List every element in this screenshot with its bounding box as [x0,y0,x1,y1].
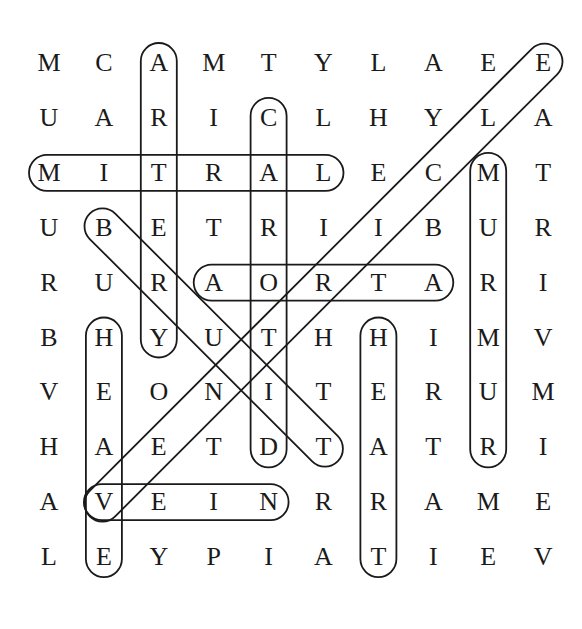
grid-cell[interactable]: A [84,427,124,467]
grid-cell[interactable]: L [29,537,69,577]
grid-cell[interactable]: I [194,482,234,522]
grid-cell[interactable]: R [139,263,179,303]
grid-cell[interactable]: B [29,318,69,358]
grid-cell[interactable]: E [523,43,563,83]
grid-cell[interactable]: C [84,43,124,83]
grid-cell[interactable]: M [468,482,508,522]
grid-cell[interactable]: C [413,153,453,193]
grid-cell[interactable]: R [249,208,289,248]
grid-cell[interactable]: T [304,372,344,412]
grid-cell[interactable]: I [413,537,453,577]
grid-cell[interactable]: I [413,318,453,358]
grid-cell[interactable]: U [29,208,69,248]
grid-cell[interactable]: P [194,537,234,577]
grid-cell[interactable]: L [304,98,344,138]
grid-cell[interactable]: E [523,482,563,522]
grid-cell[interactable]: A [413,263,453,303]
grid-cell[interactable]: R [304,263,344,303]
grid-cell[interactable]: T [249,43,289,83]
grid-cell[interactable]: I [358,208,398,248]
grid-cell[interactable]: I [249,372,289,412]
grid-cell[interactable]: E [139,482,179,522]
grid-cell[interactable]: N [249,482,289,522]
grid-cell[interactable]: T [523,153,563,193]
grid-cell[interactable]: Y [413,98,453,138]
grid-cell[interactable]: M [523,372,563,412]
grid-cell[interactable]: V [523,537,563,577]
grid-cell[interactable]: T [358,537,398,577]
grid-cell[interactable]: U [29,98,69,138]
grid-cell[interactable]: V [29,372,69,412]
grid-cell[interactable]: A [249,153,289,193]
grid-cell[interactable]: I [249,537,289,577]
grid-cell[interactable]: M [468,153,508,193]
grid-cell[interactable]: R [523,208,563,248]
grid-cell[interactable]: E [139,208,179,248]
grid-cell[interactable]: A [413,43,453,83]
grid-cell[interactable]: E [84,537,124,577]
grid-cell[interactable]: R [139,98,179,138]
grid-cell[interactable]: U [84,263,124,303]
grid-cell[interactable]: T [413,427,453,467]
grid-cell[interactable]: A [139,43,179,83]
grid-cell[interactable]: H [29,427,69,467]
grid-cell[interactable]: A [29,482,69,522]
grid-cell[interactable]: E [468,537,508,577]
grid-cell[interactable]: T [194,208,234,248]
grid-cell[interactable]: Y [139,318,179,358]
grid-cell[interactable]: V [84,482,124,522]
grid-cell[interactable]: A [84,98,124,138]
grid-cell[interactable]: L [468,98,508,138]
grid-cell[interactable]: E [358,372,398,412]
grid-cell[interactable]: A [413,482,453,522]
grid-cell[interactable]: R [413,372,453,412]
grid-cell[interactable]: R [194,153,234,193]
grid-cell[interactable]: D [249,427,289,467]
grid-cell[interactable]: N [194,372,234,412]
grid-cell[interactable]: T [139,153,179,193]
grid-cell[interactable]: E [468,43,508,83]
grid-cell[interactable]: U [468,208,508,248]
grid-cell[interactable]: A [523,98,563,138]
grid-cell[interactable]: A [304,537,344,577]
grid-cell[interactable]: H [304,318,344,358]
grid-cell[interactable]: Y [139,537,179,577]
grid-cell[interactable]: U [468,372,508,412]
grid-cell[interactable]: B [413,208,453,248]
grid-cell[interactable]: B [84,208,124,248]
grid-cell[interactable]: I [84,153,124,193]
grid-cell[interactable]: R [29,263,69,303]
grid-cell[interactable]: E [84,372,124,412]
grid-cell[interactable]: M [29,153,69,193]
grid-cell[interactable]: T [304,427,344,467]
grid-cell[interactable]: R [358,482,398,522]
grid-cell[interactable]: T [249,318,289,358]
grid-cell[interactable]: H [84,318,124,358]
grid-cell[interactable]: A [358,427,398,467]
grid-cell[interactable]: H [358,318,398,358]
grid-cell[interactable]: T [358,263,398,303]
grid-cell[interactable]: I [304,208,344,248]
grid-cell[interactable]: R [468,427,508,467]
grid-cell[interactable]: A [194,263,234,303]
grid-cell[interactable]: L [304,153,344,193]
grid-cell[interactable]: M [468,318,508,358]
grid-cell[interactable]: V [523,318,563,358]
grid-cell[interactable]: U [194,318,234,358]
grid-cell[interactable]: E [358,153,398,193]
grid-cell[interactable]: I [194,98,234,138]
grid-cell[interactable]: M [29,43,69,83]
grid-cell[interactable]: M [194,43,234,83]
grid-cell[interactable]: E [139,427,179,467]
grid-cell[interactable]: Y [304,43,344,83]
grid-cell[interactable]: R [304,482,344,522]
grid-cell[interactable]: C [249,98,289,138]
grid-cell[interactable]: L [358,43,398,83]
grid-cell[interactable]: T [194,427,234,467]
grid-cell[interactable]: I [523,427,563,467]
grid-cell[interactable]: I [523,263,563,303]
grid-cell[interactable]: H [358,98,398,138]
grid-cell[interactable]: R [468,263,508,303]
grid-cell[interactable]: O [139,372,179,412]
grid-cell[interactable]: O [249,263,289,303]
